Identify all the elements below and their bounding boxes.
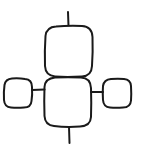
center-box [44,77,91,127]
top-box [45,26,93,77]
right-box [103,79,132,108]
left-box [4,78,32,107]
bottom-connector-line [69,127,70,143]
top-connector-line [68,12,69,26]
diagram-canvas [0,0,143,148]
left-connector-line [32,90,45,91]
diagram-svg [0,0,143,148]
